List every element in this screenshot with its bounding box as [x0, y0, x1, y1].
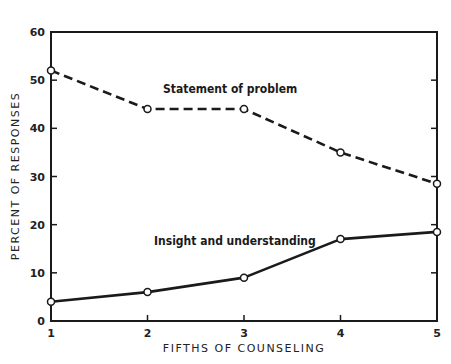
y-tick-label: 50 — [30, 74, 46, 87]
y-ticks: 0102030405060 — [30, 26, 437, 328]
y-tick-label: 40 — [30, 122, 46, 135]
x-tick-label: 3 — [240, 327, 248, 340]
annotation-statement-of-problem: Statement of problem — [163, 82, 297, 96]
y-tick-label: 20 — [30, 219, 46, 232]
x-ticks: 12345 — [47, 315, 441, 340]
y-tick-label: 10 — [30, 267, 46, 280]
line-chart: 0102030405060 12345 Statement of problem… — [0, 0, 451, 364]
x-tick-label: 5 — [433, 327, 441, 340]
data-point — [434, 180, 441, 187]
data-point — [48, 67, 55, 74]
data-point — [144, 289, 151, 296]
data-point — [241, 106, 248, 113]
y-tick-label: 60 — [30, 26, 46, 39]
y-tick-label: 0 — [37, 315, 45, 328]
data-point — [48, 298, 55, 305]
data-point — [144, 106, 151, 113]
y-axis-title: PERCENT OF RESPONSES — [9, 92, 22, 260]
data-point — [434, 228, 441, 235]
x-tick-label: 2 — [144, 327, 152, 340]
data-point — [241, 274, 248, 281]
data-point — [337, 236, 344, 243]
data-point — [337, 149, 344, 156]
annotation-insight-and-understanding: Insight and understanding — [154, 234, 316, 248]
x-axis-title: FIFTHS OF COUNSELING — [163, 342, 325, 355]
x-tick-label: 4 — [337, 327, 345, 340]
y-tick-label: 30 — [30, 171, 46, 184]
series-group — [48, 67, 441, 305]
x-tick-label: 1 — [47, 327, 55, 340]
